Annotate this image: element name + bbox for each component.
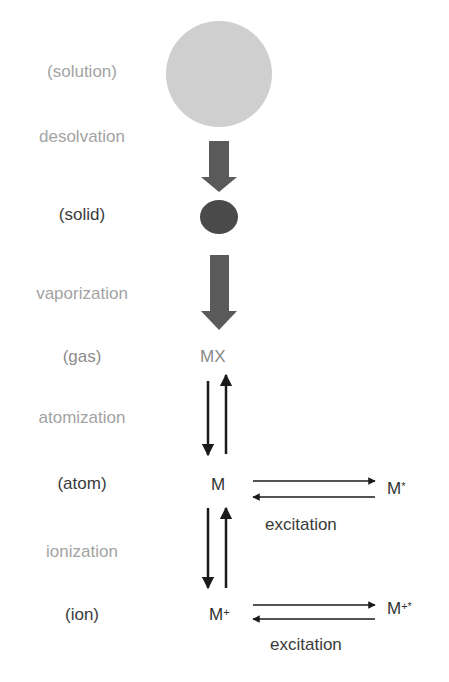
vaporization-arrow-icon	[201, 255, 237, 330]
desolvation-arrow-icon	[201, 141, 237, 192]
species-excited-ion: M+*	[387, 599, 412, 619]
species-atom-m: M	[211, 475, 225, 495]
solution-droplet-icon	[166, 21, 272, 127]
species-gas-mx: MX	[200, 347, 226, 367]
solid-particle-icon	[200, 200, 238, 234]
process-diagram	[0, 0, 449, 682]
species-ion-m-plus: M+	[209, 605, 230, 625]
excitation-label-ion: excitation	[270, 635, 342, 655]
species-excited-atom: M*	[387, 479, 405, 499]
excitation-label-atom: excitation	[265, 515, 337, 535]
